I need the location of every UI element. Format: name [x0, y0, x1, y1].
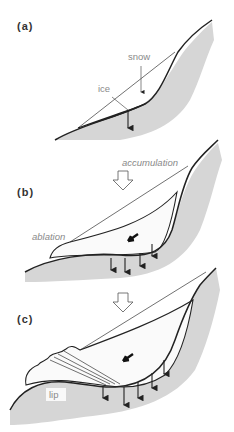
- panel-c: (c) lip: [10, 268, 220, 425]
- ice-leader: [112, 97, 128, 110]
- cirque-formation-diagram: (a) snow ice (b) accumulation ablation: [0, 0, 234, 432]
- label-lip: lip: [49, 389, 59, 400]
- label-ablation: ablation: [32, 231, 65, 242]
- label-accumulation: accumulation: [122, 157, 178, 168]
- panel-label-b: (b): [17, 186, 34, 198]
- hollow-down-arrow-icon: [113, 293, 133, 312]
- hollow-down-arrow-icon: [113, 171, 133, 190]
- panel-b: (b) accumulation ablation: [17, 140, 222, 282]
- panel-a: (a) snow ice: [17, 20, 214, 140]
- bedrock-a: [55, 22, 214, 140]
- panel-label-c: (c): [17, 313, 33, 325]
- label-ice: ice: [98, 83, 110, 94]
- panel-label-a: (a): [17, 20, 33, 32]
- label-snow: snow: [128, 51, 150, 62]
- glacier-b: [50, 192, 177, 258]
